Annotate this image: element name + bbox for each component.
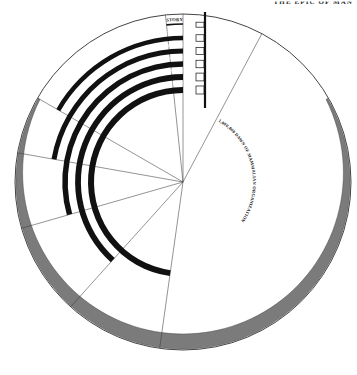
band-recorded-history <box>166 23 183 25</box>
tick-marks-group <box>196 22 204 94</box>
radial-262 <box>160 182 183 348</box>
tick-box-2 <box>196 48 204 55</box>
tick-box-5 <box>196 86 204 94</box>
tick-box-4 <box>196 73 204 81</box>
radial-228 <box>71 182 183 307</box>
tick-box-0 <box>196 22 204 27</box>
tick-box-1 <box>196 35 204 42</box>
curved-label-group: 1,000,000 DAWN OF MAMMALIAN ORGANIZATION <box>218 118 257 224</box>
curved-label-mammalian-dawn: 1,000,000 DAWN OF MAMMALIAN ORGANIZATION <box>218 118 257 224</box>
epic-of-man-circle-diagram: 3000 B.C. RECORDED HISTORY12,000 END OF … <box>0 0 357 375</box>
tick-box-3 <box>196 60 204 68</box>
diagram-stage: THE EPIC OF MAN 3000 B.C. RECORDED HISTO… <box>0 0 357 375</box>
band-label-recorded-history: 3000 B.C. RECORDED HISTORY <box>0 0 183 23</box>
